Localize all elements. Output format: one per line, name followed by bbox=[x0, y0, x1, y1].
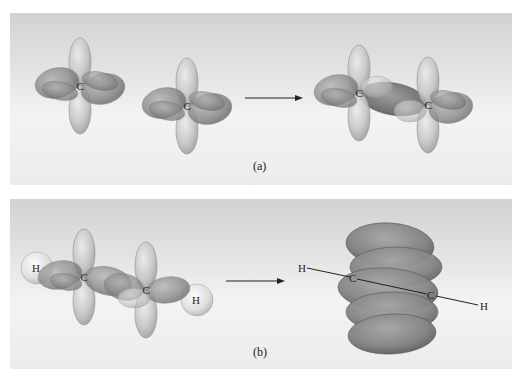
atom-label: H bbox=[32, 262, 40, 274]
carbon-atom-right: C bbox=[102, 242, 192, 338]
carbon-atom-4: C bbox=[394, 57, 476, 153]
reaction-arrow bbox=[226, 278, 285, 284]
atom-label: C bbox=[356, 87, 363, 99]
atom-label: H bbox=[298, 262, 306, 274]
carbon-atom-1: C bbox=[32, 38, 127, 134]
reaction-arrow bbox=[245, 95, 303, 101]
atom-label: C bbox=[349, 272, 356, 284]
carbon-atom-2: C bbox=[139, 58, 234, 154]
atom-label: C bbox=[184, 100, 191, 112]
panel-caption-a: (a) bbox=[253, 159, 266, 173]
atom-label: H bbox=[480, 300, 488, 312]
panel-b-diagram: H C C H bbox=[10, 199, 512, 369]
panel-caption-b: (b) bbox=[253, 345, 267, 359]
panel-a-diagram: C C C C (a) bbox=[10, 13, 512, 185]
atom-label: H bbox=[192, 294, 200, 306]
atom-label: C bbox=[81, 271, 88, 283]
atom-label: C bbox=[427, 289, 434, 301]
panel-b: H C C H bbox=[10, 199, 512, 369]
atom-label: C bbox=[77, 80, 84, 92]
atom-label: C bbox=[425, 99, 432, 111]
atom-label: C bbox=[143, 284, 150, 296]
panel-a: C C C C (a) bbox=[10, 13, 512, 185]
carbon-atom-3: C bbox=[311, 45, 393, 141]
